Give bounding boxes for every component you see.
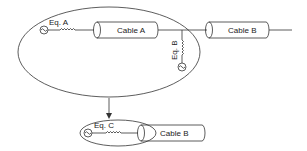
cable-equivalent-diagram: Eq. A Cable A Eq. B Cable B Eq. C Cable … xyxy=(0,0,307,151)
inductor-icon-eq-c xyxy=(106,132,121,134)
source-wave-eq-a xyxy=(41,29,47,32)
label-cable-b-bottom: Cable B xyxy=(160,129,188,138)
label-cable-b-top: Cable B xyxy=(228,26,256,35)
label-eq-c: Eq. C xyxy=(94,121,114,130)
inductor-icon-eq-b xyxy=(182,40,184,55)
label-eq-b: Eq. B xyxy=(170,40,179,60)
cable-b-bottom-end xyxy=(138,125,145,141)
arrow-head-icon xyxy=(106,113,112,119)
inductor-icon-eq-a xyxy=(60,29,75,31)
cable-a-end xyxy=(94,22,101,38)
label-eq-a: Eq. A xyxy=(49,18,69,27)
label-cable-a: Cable A xyxy=(117,26,146,35)
